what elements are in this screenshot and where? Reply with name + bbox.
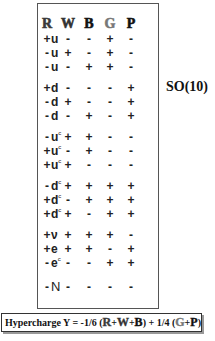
charge-cell: - (102, 243, 118, 255)
formula-term-w: W (117, 315, 129, 329)
charge-cell: + (60, 159, 76, 171)
charge-cell: - (60, 82, 76, 94)
charge-cell: + (39, 229, 55, 241)
charge-cell: + (60, 243, 76, 255)
table-row: u+--+- (38, 33, 158, 45)
charge-cell: - (60, 61, 76, 73)
charge-cell: + (81, 180, 97, 192)
formula-term-p: P (190, 315, 197, 329)
charge-cell: + (60, 229, 76, 241)
charge-cell: + (81, 243, 97, 255)
charge-cell: + (81, 110, 97, 122)
table-row: dc-++++ (38, 180, 158, 192)
charge-cell: - (39, 110, 55, 122)
table-row: dc++-++ (38, 208, 158, 220)
charge-cell: - (81, 47, 97, 59)
charge-cell: - (60, 194, 76, 206)
charge-cell: + (102, 194, 118, 206)
charge-cell: - (60, 145, 76, 157)
charge-cell: + (102, 208, 118, 220)
table-row: dc+-+++ (38, 194, 158, 206)
charge-cell: + (60, 180, 76, 192)
charge-cell: - (39, 180, 55, 192)
charge-cell: + (60, 96, 76, 108)
charge-cell: - (81, 208, 97, 220)
charge-cell: - (39, 281, 55, 293)
column-header-b: B (81, 17, 97, 31)
charge-table: RWBGP u+--+-u-+-+-u--++-d+---+d-+--+d--+… (37, 3, 159, 309)
charge-cell: - (123, 229, 139, 241)
charge-cell: + (123, 82, 139, 94)
charge-cell: - (60, 33, 76, 45)
hypercharge-formula: Hypercharge Y = -1/6 (R+W+B) + 1/4 (G+P) (1, 313, 202, 332)
charge-cell: + (123, 208, 139, 220)
charge-cell: - (123, 33, 139, 45)
formula-suffix: ) (198, 317, 201, 328)
table-row: d--+-+ (38, 110, 158, 122)
charge-cell: + (81, 61, 97, 73)
group-label: SO(10) (166, 79, 208, 95)
charge-cell: - (102, 159, 118, 171)
charge-cell: + (123, 194, 139, 206)
charge-cell: + (81, 229, 97, 241)
charge-cell: - (60, 257, 76, 269)
charge-cell: - (123, 145, 139, 157)
charge-cell: + (123, 257, 139, 269)
column-header-row: RWBGP (38, 17, 158, 31)
charge-cell: + (81, 131, 97, 143)
charge-cell: - (123, 47, 139, 59)
formula-term-b: B (135, 315, 143, 329)
column-header-g: G (102, 17, 118, 31)
charge-cell: + (39, 194, 55, 206)
charge-cell: - (102, 131, 118, 143)
column-header-p: P (123, 17, 139, 31)
charge-cell: - (123, 131, 139, 143)
charge-cell: - (39, 257, 55, 269)
table-row: ν++++- (38, 229, 158, 241)
charge-cell: - (39, 47, 55, 59)
charge-cell: - (60, 281, 76, 293)
charge-cell: - (81, 96, 97, 108)
formula-mid: ) + 1/4 ( (143, 317, 176, 328)
charge-cell: + (39, 82, 55, 94)
charge-cell: + (39, 208, 55, 220)
charge-cell: + (81, 194, 97, 206)
charge-cell: - (102, 82, 118, 94)
charge-cell: - (60, 110, 76, 122)
charge-cell: + (123, 180, 139, 192)
table-row: ec---++ (38, 257, 158, 269)
charge-cell: + (39, 145, 55, 157)
charge-cell: + (102, 47, 118, 59)
column-header-w: W (60, 17, 76, 31)
table-row: u--++- (38, 61, 158, 73)
table-row: uc-++-- (38, 131, 158, 143)
charge-cell: + (39, 33, 55, 45)
table-row: N----- (38, 281, 158, 293)
charge-cell: - (81, 33, 97, 45)
table-row: uc+-+-- (38, 145, 158, 157)
formula-prefix: Hypercharge Y = -1/6 ( (5, 317, 103, 328)
charge-cell: - (81, 257, 97, 269)
charge-cell: + (60, 208, 76, 220)
charge-cell: + (123, 243, 139, 255)
charge-cell: - (102, 145, 118, 157)
charge-cell: + (102, 61, 118, 73)
formula-term-r: R (103, 315, 112, 329)
charge-cell: + (123, 96, 139, 108)
column-header-r: R (39, 17, 55, 31)
charge-cell: - (81, 82, 97, 94)
charge-cell: - (123, 159, 139, 171)
charge-cell: + (39, 159, 55, 171)
charge-cell: - (39, 131, 55, 143)
charge-cell: - (81, 159, 97, 171)
charge-cell: - (39, 96, 55, 108)
charge-cell: - (102, 96, 118, 108)
charge-cell: - (102, 281, 118, 293)
charge-cell: + (39, 243, 55, 255)
table-row: uc++--- (38, 159, 158, 171)
charge-cell: + (102, 33, 118, 45)
charge-cell: + (60, 47, 76, 59)
charge-cell: + (60, 131, 76, 143)
charge-cell: - (81, 281, 97, 293)
table-row: e+++-+ (38, 243, 158, 255)
